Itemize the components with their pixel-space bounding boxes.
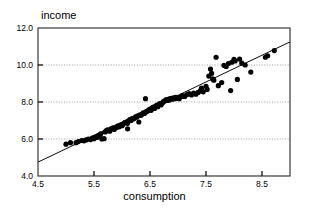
svg-text:10.0: 10.0 (16, 60, 33, 70)
x-axis-title: consumption (0, 190, 309, 202)
svg-text:8.0: 8.0 (21, 97, 33, 107)
svg-text:6.5: 6.5 (144, 179, 156, 189)
axis-ticks (38, 65, 262, 176)
scatter-plot: 4.06.08.010.012.04.55.56.57.58.5 (0, 0, 309, 213)
axis-tick-labels: 4.06.08.010.012.04.55.56.57.58.5 (16, 23, 268, 189)
svg-text:6.0: 6.0 (21, 134, 33, 144)
svg-text:5.5: 5.5 (88, 179, 100, 189)
chart-container: income 4.06.08.010.012.04.55.56.57.58.5 … (0, 0, 309, 213)
data-points (63, 48, 277, 147)
svg-text:4.5: 4.5 (32, 179, 44, 189)
svg-text:7.5: 7.5 (200, 179, 212, 189)
svg-text:12.0: 12.0 (16, 23, 33, 33)
svg-text:8.5: 8.5 (256, 179, 268, 189)
